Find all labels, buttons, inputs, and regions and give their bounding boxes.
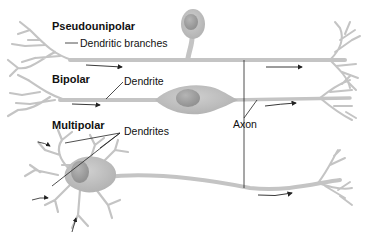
multipolar-right-arrow-icon	[258, 193, 292, 196]
dendrites-label: Dendrites	[124, 126, 169, 137]
multipolar-label: Multipolar	[52, 120, 105, 131]
multipolar-input-arrow-icon	[32, 198, 48, 200]
neuron-types-diagram: Pseudounipolar Dendritic branches Bipola…	[0, 0, 378, 244]
bipolar-right-arrow-icon	[265, 103, 296, 106]
dendrite-label: Dendrite	[124, 76, 164, 87]
axon-leader	[244, 100, 257, 118]
dendrite-leader	[106, 82, 123, 99]
axon-label: Axon	[233, 119, 257, 130]
pseudounipolar-nucleus	[184, 14, 198, 30]
dendritic-branches-label: Dendritic branches	[80, 38, 168, 49]
bipolar-label: Bipolar	[52, 74, 90, 85]
pseudounipolar-label: Pseudounipolar	[52, 21, 135, 32]
bipolar-nucleus	[176, 89, 200, 107]
pseudounipolar-left-arrow-icon	[86, 65, 122, 67]
bipolar-left-arrow-icon	[72, 104, 100, 105]
